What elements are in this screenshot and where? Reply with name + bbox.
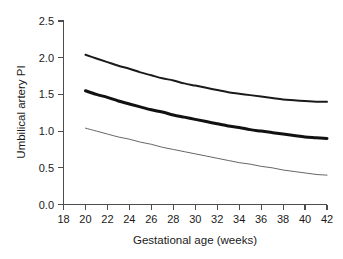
umbilical-artery-pi-line-chart: 0.00.51.01.52.02.5 Umbilical artery PI 1… [0, 0, 343, 259]
y-tick-label: 1.0 [39, 125, 54, 137]
y-tick-marks [58, 21, 64, 205]
x-tick-label: 24 [123, 213, 135, 225]
y-tick-label: 2.5 [39, 15, 54, 27]
y-tick-labels: 0.00.51.01.52.02.5 [39, 15, 54, 211]
x-tick-label: 22 [101, 213, 113, 225]
x-tick-label: 30 [189, 213, 201, 225]
x-tick-label: 40 [299, 213, 311, 225]
x-tick-label: 32 [211, 213, 223, 225]
x-tick-label: 42 [321, 213, 333, 225]
y-axis-group: 0.00.51.01.52.02.5 Umbilical artery PI [15, 15, 64, 211]
data-series-line [85, 91, 327, 139]
y-tick-label: 2.0 [39, 52, 54, 64]
y-axis-title: Umbilical artery PI [15, 65, 27, 158]
y-tick-label: 1.5 [39, 88, 54, 100]
x-axis-title: Gestational age (weeks) [133, 234, 257, 246]
x-tick-label: 38 [277, 213, 289, 225]
x-tick-label: 36 [255, 213, 267, 225]
x-tick-label: 20 [79, 213, 91, 225]
x-tick-marks [64, 205, 328, 211]
x-tick-label: 28 [167, 213, 179, 225]
chart-figure: 0.00.51.01.52.02.5 Umbilical artery PI 1… [0, 0, 343, 259]
x-axis-group: 18202224262830323436384042 Gestational a… [57, 205, 333, 247]
y-tick-label: 0.0 [39, 199, 54, 211]
data-series-line [85, 55, 327, 102]
x-tick-label: 18 [57, 213, 69, 225]
x-tick-label: 34 [233, 213, 245, 225]
y-tick-label: 0.5 [39, 162, 54, 174]
x-tick-labels: 18202224262830323436384042 [57, 213, 333, 225]
x-tick-label: 26 [145, 213, 157, 225]
data-series-group [85, 55, 327, 175]
